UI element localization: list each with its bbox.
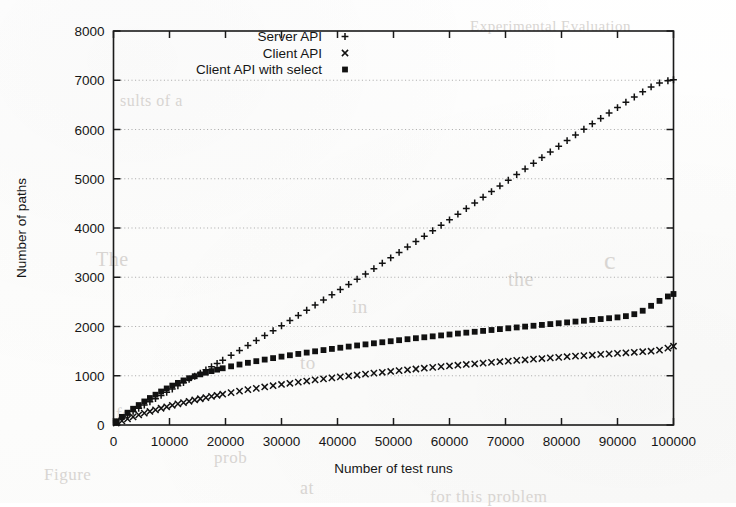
data-point [404, 244, 411, 251]
data-point [197, 371, 203, 377]
data-point [152, 407, 158, 413]
data-point [136, 412, 142, 418]
data-point [447, 332, 453, 338]
data-point [214, 360, 221, 367]
data-point [497, 182, 504, 189]
data-point [463, 205, 470, 212]
data-point [147, 395, 153, 401]
data-point [657, 298, 663, 304]
data-point [623, 313, 629, 319]
data-point [539, 154, 546, 161]
data-point [354, 343, 360, 349]
y-tick-label: 7000 [74, 73, 104, 88]
data-point [169, 383, 175, 389]
x-tick-label: 30000 [263, 434, 301, 449]
data-point [614, 350, 620, 356]
x-tick-label: 60000 [431, 434, 469, 449]
data-point [270, 355, 276, 361]
data-point [505, 177, 512, 184]
data-point [181, 378, 187, 384]
data-point [320, 376, 326, 382]
data-point [606, 351, 612, 357]
data-point [556, 320, 562, 326]
y-tick-label: 8000 [74, 24, 104, 39]
data-point [279, 354, 285, 360]
data-point [531, 323, 537, 329]
data-point [522, 357, 528, 363]
data-point [581, 318, 587, 324]
y-tick-label: 6000 [74, 123, 104, 138]
data-point [505, 358, 511, 364]
data-point [648, 348, 654, 354]
series-3 [113, 291, 676, 424]
data-point [581, 352, 587, 358]
data-point [346, 344, 352, 350]
data-point [164, 386, 170, 392]
data-point [245, 387, 251, 393]
series-2 [113, 343, 676, 426]
data-point [539, 355, 545, 361]
data-point [236, 347, 243, 354]
data-point [614, 104, 621, 111]
data-point [670, 76, 677, 83]
data-point [564, 354, 570, 360]
data-point [262, 357, 268, 363]
data-point [665, 294, 671, 300]
data-point [547, 355, 553, 361]
data-point [396, 249, 403, 256]
data-point [113, 418, 119, 424]
y-tick-label: 2000 [74, 320, 104, 335]
data-point [547, 321, 553, 327]
data-point [186, 375, 192, 381]
data-point [623, 99, 630, 106]
data-point [640, 308, 646, 314]
data-point [421, 233, 428, 240]
data-point [463, 330, 469, 336]
x-tick-label: 100000 [651, 434, 696, 449]
data-point [572, 132, 579, 139]
data-point [564, 320, 570, 326]
data-point [455, 331, 461, 337]
data-point [287, 317, 294, 324]
data-point [665, 77, 672, 84]
data-point [186, 398, 192, 404]
data-point [175, 380, 181, 386]
data-point [671, 291, 677, 297]
data-point [337, 345, 343, 351]
data-point [639, 88, 646, 95]
data-point [197, 396, 203, 402]
data-point [421, 334, 427, 340]
x-tick-label: 80000 [543, 434, 581, 449]
data-point [581, 126, 588, 133]
data-point [589, 120, 596, 127]
data-point [413, 335, 419, 341]
data-point [312, 302, 319, 309]
data-point [489, 327, 495, 333]
data-point [287, 352, 293, 358]
data-point [158, 405, 164, 411]
data-point [615, 314, 621, 320]
data-point [371, 370, 377, 376]
data-point [488, 359, 494, 365]
data-point [203, 370, 209, 376]
data-point [648, 83, 655, 90]
data-point [321, 347, 327, 353]
data-point [404, 367, 410, 373]
data-point [175, 401, 181, 407]
data-point [589, 317, 595, 323]
data-point [371, 340, 377, 346]
legend-marker-1 [342, 33, 349, 40]
data-point [329, 375, 335, 381]
data-point [295, 351, 301, 357]
data-point [262, 384, 268, 390]
data-point [147, 408, 153, 414]
data-point [497, 326, 503, 332]
data-point [438, 364, 444, 370]
data-point [514, 325, 520, 331]
data-point [631, 94, 638, 101]
data-point [119, 414, 125, 420]
y-tick-label: 4000 [74, 221, 104, 236]
data-point [631, 349, 637, 355]
data-point [547, 149, 554, 156]
data-point [598, 316, 604, 322]
